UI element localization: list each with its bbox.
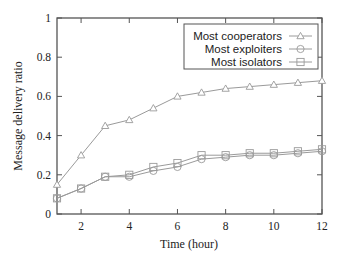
line-chart: 24681012 00.20.40.60.81 Time (hour) Mess… — [0, 0, 344, 258]
series-most-exploiters — [53, 148, 325, 202]
y-tick-label: 0.6 — [37, 90, 52, 102]
legend-label: Most exploiters — [205, 43, 283, 55]
y-tick-label: 0.8 — [37, 51, 52, 63]
y-axis-label: Message delivery ratio — [11, 61, 25, 170]
x-tick-label: 2 — [78, 220, 84, 232]
series-line — [57, 149, 322, 198]
x-tick-label: 4 — [126, 220, 132, 232]
y-tick-label: 0 — [45, 208, 51, 220]
legend: Most cooperatorsMost exploitersMost isol… — [184, 24, 318, 69]
series-line — [57, 151, 322, 198]
x-tick-label: 8 — [223, 220, 229, 232]
x-tick-label: 10 — [268, 220, 280, 232]
data-point-triangle — [150, 105, 157, 111]
y-tick-label: 0.4 — [37, 130, 52, 142]
data-point-triangle — [318, 77, 325, 83]
series-most-cooperators — [53, 77, 325, 187]
legend-label: Most cooperators — [193, 30, 282, 42]
y-tick-label: 0.2 — [37, 169, 52, 181]
legend-label: Most isolators — [211, 56, 282, 68]
series-line — [57, 81, 322, 185]
series-lines — [53, 77, 325, 202]
x-tick-label: 12 — [316, 220, 328, 232]
y-tick-label: 1 — [45, 12, 51, 24]
x-tick-label: 6 — [175, 220, 181, 232]
data-point-triangle — [126, 116, 133, 122]
x-axis-label: Time (hour) — [160, 237, 218, 251]
